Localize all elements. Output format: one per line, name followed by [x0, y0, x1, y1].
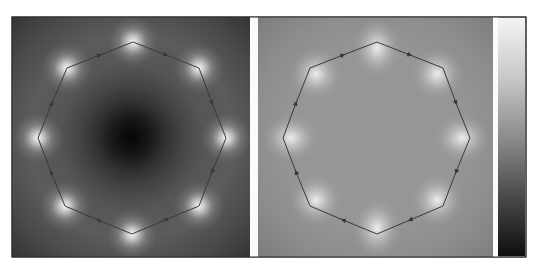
colorbar — [498, 18, 525, 256]
right-panel — [258, 17, 493, 258]
panel-separator — [250, 17, 258, 257]
colorbar-separator — [493, 17, 498, 257]
figure-canvas — [0, 0, 540, 271]
figure — [0, 0, 540, 271]
left-panel — [12, 16, 252, 260]
